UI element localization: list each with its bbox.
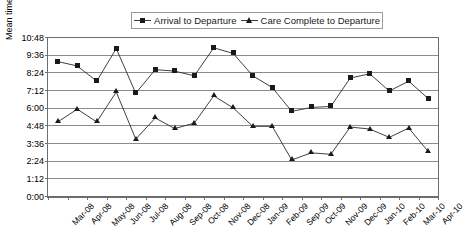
y-tick-label: 0:00	[26, 192, 44, 202]
x-tick-mark	[438, 197, 439, 200]
data-point[interactable]	[348, 75, 353, 80]
legend-label: Care Complete to Departure	[261, 16, 380, 26]
data-point[interactable]	[406, 78, 411, 83]
data-point[interactable]	[133, 90, 138, 95]
data-point[interactable]	[94, 118, 100, 123]
data-point[interactable]	[309, 104, 314, 109]
y-tick-label: 2:24	[26, 156, 44, 166]
y-tick-label: 7:12	[26, 86, 44, 96]
plot-area: 10:489:368:247:126:004:483:362:241:120:0…	[47, 37, 439, 198]
data-point[interactable]	[426, 96, 431, 101]
data-point[interactable]	[114, 46, 119, 51]
data-point[interactable]	[191, 120, 197, 125]
data-point[interactable]	[172, 68, 177, 73]
legend-entry-care-complete-to-departure[interactable]: Care Complete to Departure	[241, 16, 380, 26]
data-point[interactable]	[94, 78, 99, 83]
data-point[interactable]	[367, 71, 372, 76]
data-point[interactable]	[55, 118, 61, 123]
data-point[interactable]	[55, 59, 60, 64]
data-point[interactable]	[230, 104, 236, 109]
data-point[interactable]	[328, 151, 334, 156]
square-marker-icon	[134, 16, 151, 25]
data-point[interactable]	[250, 123, 256, 128]
triangle-marker-icon	[241, 16, 258, 25]
y-tick-label: 10:48	[21, 33, 44, 43]
data-point[interactable]	[270, 85, 275, 90]
data-point[interactable]	[231, 50, 236, 55]
data-point[interactable]	[347, 124, 353, 129]
data-point[interactable]	[425, 148, 431, 153]
data-point[interactable]	[289, 108, 294, 113]
data-point[interactable]	[328, 103, 333, 108]
legend-label: Arrival to Departure	[154, 16, 236, 26]
y-axis-title: Mean time hh:mm	[2, 0, 16, 69]
data-point[interactable]	[250, 73, 255, 78]
data-point[interactable]	[133, 136, 139, 141]
series-line-arrival-to-departure	[58, 47, 429, 111]
data-point[interactable]	[192, 73, 197, 78]
data-point[interactable]	[386, 134, 392, 139]
legend-entry-arrival-to-departure[interactable]: Arrival to Departure	[134, 16, 236, 26]
data-point[interactable]	[387, 88, 392, 93]
data-point[interactable]	[308, 149, 314, 154]
data-point[interactable]	[75, 63, 80, 68]
data-point[interactable]	[153, 67, 158, 72]
y-tick-label: 6:00	[26, 103, 44, 113]
data-point[interactable]	[152, 114, 158, 119]
series-lines	[48, 38, 438, 197]
data-point[interactable]	[269, 123, 275, 128]
data-point[interactable]	[113, 88, 119, 93]
data-point[interactable]	[172, 125, 178, 130]
data-point[interactable]	[211, 45, 216, 50]
y-tick-label: 9:36	[26, 50, 44, 60]
y-tick-label: 4:48	[26, 121, 44, 131]
data-point[interactable]	[289, 156, 295, 161]
y-tick-label: 8:24	[26, 68, 44, 78]
y-tick-label: 1:12	[26, 174, 44, 184]
data-point[interactable]	[74, 106, 80, 111]
chart-legend: Arrival to Departure Care Complete to De…	[131, 12, 383, 29]
data-point[interactable]	[367, 126, 373, 131]
x-axis-labels: Mar-08Apr-08May-08Jun-08Jul-08Aug-08Sep-…	[47, 197, 437, 243]
data-point[interactable]	[211, 92, 217, 97]
y-tick-label: 3:36	[26, 139, 44, 149]
data-point[interactable]	[406, 125, 412, 130]
